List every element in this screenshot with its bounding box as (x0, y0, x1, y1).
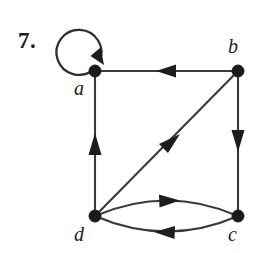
vertex-a-dot[interactable] (89, 65, 101, 77)
vertex-c-dot[interactable] (232, 210, 244, 222)
vertex-a-label: a (74, 78, 84, 98)
vertex-c-label: c (228, 224, 237, 244)
edge-d-to-a-arrowhead (89, 133, 102, 155)
vertex-d-label: d (74, 224, 84, 244)
edge-b-to-a (95, 65, 238, 78)
edge-b-to-c-arrowhead (232, 130, 245, 152)
vertex-d-dot[interactable] (89, 210, 101, 222)
edge-c-to-d (95, 216, 238, 239)
edge-d-to-b-arrowhead (159, 134, 180, 153)
graph-figure: 7. (0, 0, 268, 253)
edge-b-to-c (232, 71, 245, 216)
edge-b-to-a-arrowhead (156, 65, 176, 78)
edge-d-to-c-arrowhead (159, 195, 180, 208)
edge-d-to-c (95, 195, 238, 217)
edge-c-to-d-arrowhead (154, 226, 175, 239)
vertex-b-label: b (228, 36, 238, 56)
edge-d-to-a (89, 71, 102, 216)
edge-d-to-b (95, 71, 238, 216)
vertex-b-dot[interactable] (232, 65, 244, 77)
